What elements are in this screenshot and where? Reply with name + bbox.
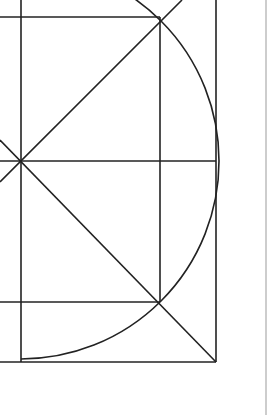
geometric-diagram	[0, 0, 280, 415]
background	[0, 0, 280, 415]
